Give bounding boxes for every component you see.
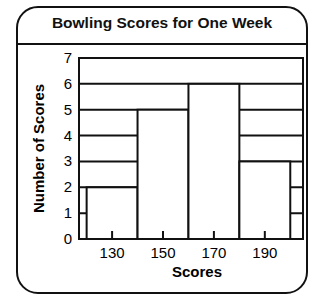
y-tick-label: 6 bbox=[64, 75, 72, 92]
y-tick-label: 0 bbox=[64, 230, 72, 247]
x-tick-label: 150 bbox=[150, 244, 175, 261]
histogram-bar bbox=[239, 161, 290, 239]
y-tick-label: 3 bbox=[64, 152, 72, 169]
x-tick-label: 170 bbox=[201, 244, 226, 261]
histogram-bar bbox=[188, 84, 239, 239]
y-tick-label: 7 bbox=[64, 49, 72, 66]
y-tick-label: 5 bbox=[64, 101, 72, 118]
x-axis-label: Scores bbox=[172, 263, 222, 280]
y-axis-label: Number of Scores bbox=[30, 84, 47, 213]
y-tick-label: 1 bbox=[64, 204, 72, 221]
y-tick-label: 2 bbox=[64, 178, 72, 195]
histogram-bar bbox=[138, 110, 189, 239]
histogram-plot: 13015017019001234567ScoresNumber of Scor… bbox=[0, 0, 310, 301]
x-tick-label: 190 bbox=[252, 244, 277, 261]
y-tick-label: 4 bbox=[64, 127, 72, 144]
x-tick-label: 130 bbox=[100, 244, 125, 261]
